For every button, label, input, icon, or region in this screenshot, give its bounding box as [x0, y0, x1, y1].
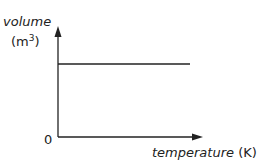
unit-text: (m: [11, 34, 29, 49]
x-axis-label: temperature (K): [152, 145, 257, 160]
x-axis-word: temperature: [152, 145, 234, 160]
y-axis-arrow-icon: [55, 26, 62, 37]
x-axis-arrow-icon: [192, 134, 203, 141]
origin-label: 0: [44, 132, 52, 147]
y-axis-label: volume: [3, 14, 51, 29]
unit-close: ): [34, 34, 39, 49]
x-axis-unit: (K): [238, 145, 257, 160]
y-axis-unit: (m3): [11, 31, 40, 49]
